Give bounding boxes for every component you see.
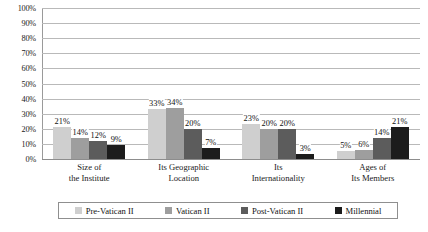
bar-fill bbox=[373, 138, 391, 159]
bar[interactable]: 20% bbox=[278, 129, 296, 159]
bar[interactable]: 21% bbox=[53, 127, 71, 159]
bar-value-label: 3% bbox=[299, 144, 311, 153]
bar-value-label: 6% bbox=[358, 140, 370, 149]
bar-value-label: 21% bbox=[392, 117, 408, 126]
bar-value-label: 5% bbox=[340, 141, 352, 150]
bar-fill bbox=[184, 129, 202, 159]
legend-swatch-icon bbox=[241, 207, 248, 214]
bar[interactable]: 20% bbox=[184, 129, 202, 159]
legend-item[interactable]: Millennial bbox=[335, 206, 382, 216]
bar-group: 23%20%20%3% bbox=[242, 8, 314, 159]
bar[interactable]: 5% bbox=[337, 151, 355, 159]
bar-value-label: 9% bbox=[110, 135, 122, 144]
bar-fill bbox=[391, 127, 409, 159]
bar-group: 5%6%14%21% bbox=[337, 8, 409, 159]
legend-label: Pre-Vatican II bbox=[86, 206, 134, 216]
y-axis-tick-label: 70% bbox=[0, 49, 36, 58]
bar-fill bbox=[89, 141, 107, 159]
bar-fill bbox=[53, 127, 71, 159]
bar[interactable]: 23% bbox=[242, 124, 260, 159]
bar-value-label: 23% bbox=[243, 114, 259, 123]
y-axis-tick-label: 10% bbox=[0, 139, 36, 148]
y-axis-tick-label: 50% bbox=[0, 79, 36, 88]
bar-groups: 21%14%12%9%33%34%20%7%23%20%20%3%5%6%14%… bbox=[42, 8, 420, 159]
x-axis-category-label: Ages ofIts Members bbox=[314, 162, 428, 184]
bar-fill bbox=[148, 109, 166, 159]
bar-value-label: 33% bbox=[149, 99, 165, 108]
bar[interactable]: 21% bbox=[391, 127, 409, 159]
y-axis-labels: 100%90%80%70%60%50%40%30%20%10%0% bbox=[0, 8, 38, 160]
bar-value-label: 7% bbox=[205, 138, 217, 147]
bar[interactable]: 33% bbox=[148, 109, 166, 159]
x-axis-category-labels: Size ofthe InstituteIts GeographicLocati… bbox=[42, 162, 420, 194]
bar[interactable]: 7% bbox=[202, 148, 220, 159]
bar-value-label: 34% bbox=[167, 98, 183, 107]
bar-chart: 100%90%80%70%60%50%40%30%20%10%0% 21%14%… bbox=[0, 0, 428, 232]
legend-swatch-icon bbox=[335, 207, 342, 214]
legend-swatch-icon bbox=[75, 207, 82, 214]
bar-value-label: 20% bbox=[279, 119, 295, 128]
bar-value-label: 20% bbox=[261, 119, 277, 128]
bar-fill bbox=[202, 148, 220, 159]
legend-label: Millennial bbox=[346, 206, 382, 216]
bar-group: 33%34%20%7% bbox=[148, 8, 220, 159]
y-axis-tick-label: 60% bbox=[0, 64, 36, 73]
category-label-line: Ages of bbox=[314, 162, 428, 173]
y-axis-tick-label: 40% bbox=[0, 94, 36, 103]
bar-fill bbox=[278, 129, 296, 159]
bar[interactable]: 14% bbox=[373, 138, 391, 159]
bar-fill bbox=[166, 108, 184, 159]
legend: Pre-Vatican IIVatican IIPost-Vatican IIM… bbox=[58, 202, 398, 219]
bar-fill bbox=[355, 150, 373, 159]
y-axis-tick-label: 30% bbox=[0, 109, 36, 118]
bar-fill bbox=[260, 129, 278, 159]
legend-label: Post-Vatican II bbox=[252, 206, 303, 216]
bar-value-label: 12% bbox=[90, 131, 106, 140]
bar[interactable]: 12% bbox=[89, 141, 107, 159]
bar-value-label: 21% bbox=[54, 117, 70, 126]
legend-swatch-icon bbox=[165, 207, 172, 214]
y-axis-tick-label: 100% bbox=[0, 4, 36, 13]
category-label-line: Its Members bbox=[314, 173, 428, 184]
bar-value-label: 20% bbox=[185, 119, 201, 128]
bar[interactable]: 34% bbox=[166, 108, 184, 159]
y-axis-tick-label: 80% bbox=[0, 34, 36, 43]
legend-item[interactable]: Vatican II bbox=[165, 206, 210, 216]
legend-item[interactable]: Pre-Vatican II bbox=[75, 206, 134, 216]
bar[interactable]: 20% bbox=[260, 129, 278, 159]
bar-fill bbox=[107, 145, 125, 159]
bar-fill bbox=[242, 124, 260, 159]
bar[interactable]: 9% bbox=[107, 145, 125, 159]
legend-label: Vatican II bbox=[176, 206, 210, 216]
x-axis-line bbox=[42, 159, 420, 160]
plot-area: 21%14%12%9%33%34%20%7%23%20%20%3%5%6%14%… bbox=[42, 8, 420, 160]
bar[interactable]: 14% bbox=[71, 138, 89, 159]
bar[interactable]: 6% bbox=[355, 150, 373, 159]
legend-item[interactable]: Post-Vatican II bbox=[241, 206, 303, 216]
bar-value-label: 14% bbox=[72, 128, 88, 137]
bar-fill bbox=[71, 138, 89, 159]
bar-group: 21%14%12%9% bbox=[53, 8, 125, 159]
y-axis-tick-label: 20% bbox=[0, 124, 36, 133]
y-axis-tick-label: 90% bbox=[0, 19, 36, 28]
bar-fill bbox=[337, 151, 355, 159]
bar-value-label: 14% bbox=[374, 128, 390, 137]
